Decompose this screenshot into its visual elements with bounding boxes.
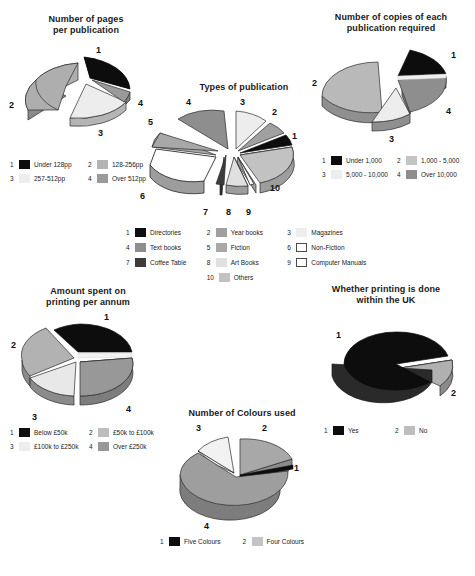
pie-slice-2[interactable]: [25, 63, 78, 120]
pie-label-6: 6: [140, 191, 145, 201]
chart-panel-types-of-publication: Types of publication: [120, 82, 368, 288]
legend-item[interactable]: 2 Four Colours: [243, 537, 326, 546]
legend-item[interactable]: 10 Others: [207, 273, 288, 282]
pie-label-8: 8: [226, 207, 231, 217]
legend-swatch-icon: [97, 160, 108, 169]
legend-item[interactable]: 1 Yes: [324, 426, 395, 435]
pie-label-1: 1: [451, 50, 456, 60]
pie-slice-1[interactable]: [54, 324, 132, 352]
legend-item[interactable]: 6 Non-Fiction: [287, 243, 368, 252]
legend-item[interactable]: 7 Coffee Table: [126, 258, 207, 267]
pie-label-4: 4: [204, 521, 209, 531]
pie-chart-amount: 1 2 3 4: [8, 308, 168, 426]
legend-item[interactable]: 2 No: [395, 426, 466, 435]
chart-panel-amount-spent: Amount spent on printing per annum: [8, 286, 168, 456]
legend-item[interactable]: 4 Text books: [126, 243, 207, 252]
legend-item[interactable]: 8 Art Books: [207, 258, 288, 267]
pie-label-3: 3: [389, 134, 394, 144]
legend-swatch-icon: [219, 273, 230, 282]
legend-swatch-icon: [216, 243, 227, 252]
page-title: Number of Colours used: [152, 408, 332, 419]
pie-slice-6[interactable]: [150, 149, 216, 194]
page-title: Amount spent on printing per annum: [8, 286, 168, 308]
pie-label-2: 2: [451, 388, 456, 398]
legend-item[interactable]: 1 Five Colours: [160, 537, 243, 546]
legend-types: 1 Directories 2 Year books 3 Magazines 4…: [120, 228, 368, 288]
pie-chart-colours: 1 2 3 4: [152, 419, 332, 537]
pie-svg-colours: 1 2 3 4: [152, 419, 332, 537]
pie-chart-types: 1 2 3 4 5 6 7 8 9 10: [120, 93, 368, 228]
legend-swatch-icon: [406, 156, 417, 165]
pie-svg-types: 1 2 3 4 5 6 7 8 9 10: [120, 93, 368, 228]
legend-item[interactable]: 2 Year books: [207, 228, 288, 237]
legend-item[interactable]: 1 Under 128pp: [10, 160, 88, 169]
legend-swatch-icon: [19, 174, 30, 183]
pie-label-1: 1: [336, 330, 341, 340]
legend-swatch-icon: [97, 174, 108, 183]
pie-label-7: 7: [203, 207, 208, 217]
pie-label-4: 4: [186, 97, 191, 107]
pie-label-5: 5: [148, 117, 153, 127]
pie-chart-uk: 1 2: [300, 306, 472, 424]
pie-label-3: 3: [240, 97, 245, 107]
pie-label-2: 2: [9, 100, 14, 110]
pie-label-1: 1: [104, 312, 109, 322]
legend-swatch-icon: [98, 428, 109, 437]
legend-swatch-icon: [296, 228, 307, 237]
legend-swatch-icon: [19, 428, 30, 437]
pie-label-4: 4: [446, 106, 451, 116]
legend-item[interactable]: 4 Over 10,000: [397, 170, 472, 179]
legend-swatch-icon: [19, 160, 30, 169]
pie-label-1: 1: [96, 45, 101, 55]
pie-label-3: 3: [196, 423, 201, 433]
pie-label-2: 2: [262, 423, 267, 433]
legend-swatch-icon: [252, 537, 263, 546]
legend-swatch-icon: [135, 258, 146, 267]
legend-swatch-icon: [333, 426, 344, 435]
pie-svg-amount: 1 2 3 4: [8, 308, 168, 426]
pie-separator: [78, 353, 132, 358]
legend-colours: 1 Five Colours 2 Four Colours: [152, 537, 332, 546]
legend-swatch-icon: [216, 228, 227, 237]
legend-item[interactable]: 9 Computer Manuals: [287, 258, 368, 267]
page-title: Number of pages per publication: [6, 14, 166, 36]
page-title: Number of copies of each publication req…: [310, 12, 472, 34]
pie-label-4: 4: [126, 404, 131, 414]
legend-swatch-icon: [135, 243, 146, 252]
legend-swatch-icon: [169, 537, 180, 546]
pie-label-1: 1: [292, 131, 297, 141]
legend-item[interactable]: 3 257-512pp: [10, 174, 88, 183]
legend-swatch-icon: [135, 228, 146, 237]
pie-label-2: 2: [272, 107, 277, 117]
legend-swatch-icon: [296, 258, 307, 267]
legend-item[interactable]: 1 Below £50k: [10, 428, 89, 437]
pie-label-3: 3: [98, 128, 103, 138]
pie-label-9: 9: [246, 207, 251, 217]
legend-item[interactable]: 3 £100k to £250k: [10, 442, 89, 451]
pie-label-3: 3: [32, 412, 37, 422]
legend-swatch-icon: [404, 426, 415, 435]
legend-item[interactable]: 2 1,000 - 5,000: [397, 156, 472, 165]
legend-item[interactable]: 1 Directories: [126, 228, 207, 237]
legend-amount: 1 Below £50k 2 £50k to £100k 3 £100k to …: [8, 428, 168, 456]
pie-slice-1[interactable]: [398, 50, 446, 76]
legend-swatch-icon: [216, 258, 227, 267]
legend-swatch-icon: [406, 170, 417, 179]
pie-label-1: 1: [294, 463, 299, 473]
legend-item[interactable]: 5 Fiction: [207, 243, 288, 252]
legend-swatch-icon: [296, 243, 307, 252]
page-title: Whether printing is done within the UK: [300, 284, 472, 306]
pie-svg-uk: 1 2: [300, 306, 472, 424]
legend-item[interactable]: 3 Magazines: [287, 228, 368, 237]
pie-label-10: 10: [270, 183, 280, 193]
pie-label-2: 2: [11, 340, 16, 350]
pie-slice-7[interactable]: [216, 155, 226, 195]
chart-panel-number-of-colours: Number of Colours used 1 2: [152, 408, 332, 546]
legend-swatch-icon: [19, 442, 30, 451]
pie-slice-4[interactable]: [80, 358, 133, 405]
legend-swatch-icon: [98, 442, 109, 451]
page-title: Types of publication: [120, 82, 368, 93]
